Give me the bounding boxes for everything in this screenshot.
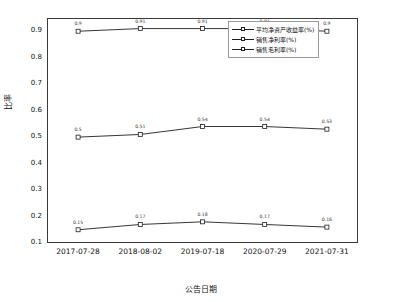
data-point-label: 0.91 (197, 19, 207, 24)
data-point-marker (263, 222, 267, 226)
data-point-label: 0.17 (135, 214, 145, 219)
data-point-marker (138, 27, 142, 31)
y-tick-label: 0.4 (8, 159, 42, 167)
data-point-label: 0.91 (135, 19, 145, 24)
legend-line-marker-icon (232, 25, 254, 34)
data-point-label: 0.15 (73, 220, 83, 225)
legend-line-marker-icon (232, 45, 254, 54)
data-point-label: 0.16 (322, 217, 332, 222)
data-point-label: 0.54 (197, 117, 207, 122)
data-point-label: 0.9 (323, 21, 330, 26)
y-tick-label: 0.1 (8, 238, 42, 246)
data-point-marker (201, 27, 205, 31)
y-tick-label: 0.9 (8, 26, 42, 34)
data-point-marker (138, 132, 142, 136)
legend-item-2: 销售毛利率(%) (232, 45, 314, 54)
legend-label-0: 平均净资产收益率(%) (254, 25, 314, 34)
y-tick-label: 0.3 (8, 185, 42, 193)
y-tick-label: 0.2 (8, 212, 42, 220)
data-point-marker (263, 125, 267, 129)
data-point-label: 0.51 (135, 124, 145, 129)
x-tick-label: 2021-07-31 (292, 247, 362, 256)
data-point-label: 0.17 (260, 214, 270, 219)
data-point-label: 0.54 (260, 117, 270, 122)
x-tick-label: 2020-07-29 (230, 247, 300, 256)
data-point-marker (76, 29, 80, 33)
y-tick-label: 0.6 (8, 106, 42, 114)
data-point-label: 0.9 (74, 21, 81, 26)
x-tick-label: 2019-07-18 (168, 247, 238, 256)
data-point-marker (325, 225, 329, 229)
data-point-marker (76, 228, 80, 232)
legend-label-1: 销售净利率(%) (254, 35, 296, 44)
legend-line-marker-icon (232, 35, 254, 44)
x-axis-label: 公告日期 (0, 283, 401, 294)
y-axis-label: 比率 (2, 94, 13, 110)
y-tick-label: 0.5 (8, 132, 42, 140)
data-point-marker (76, 135, 80, 139)
data-point-marker (201, 220, 205, 224)
legend-item-1: 销售净利率(%) (232, 35, 314, 44)
data-point-marker (325, 29, 329, 33)
data-point-marker (325, 127, 329, 131)
x-tick-label: 2018-08-02 (105, 247, 175, 256)
data-point-marker (201, 125, 205, 129)
data-point-label: 0.18 (197, 212, 207, 217)
x-tick-label: 2017-07-28 (43, 247, 113, 256)
line-chart: 0.10.20.30.40.50.60.70.80.9 2017-07-2820… (0, 0, 401, 302)
data-point-label: 0.53 (322, 119, 332, 124)
data-point-marker (138, 222, 142, 226)
y-tick-label: 0.7 (8, 79, 42, 87)
legend-label-2: 销售毛利率(%) (254, 45, 296, 54)
y-tick-label: 0.8 (8, 53, 42, 61)
legend: 平均净资产收益率(%) 销售净利率(%) 销售毛利率(%) (228, 21, 319, 58)
legend-item-0: 平均净资产收益率(%) (232, 25, 314, 34)
data-point-label: 0.5 (74, 127, 81, 132)
